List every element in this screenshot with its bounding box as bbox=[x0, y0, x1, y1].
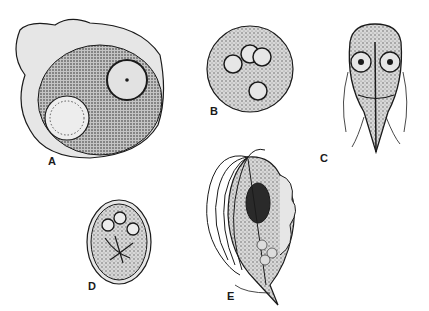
figure-c-label: C bbox=[320, 152, 328, 164]
figure-a-label: A bbox=[48, 155, 56, 167]
figure-c bbox=[338, 22, 413, 162]
illustration-plate: A B C bbox=[0, 0, 429, 311]
figure-d bbox=[85, 198, 153, 286]
cyst-b-drawing bbox=[205, 24, 295, 114]
figure-b bbox=[205, 24, 295, 114]
cyst-a-drawing bbox=[10, 15, 170, 160]
figure-e bbox=[200, 145, 310, 310]
figure-a bbox=[10, 15, 170, 160]
cyst-d-drawing bbox=[85, 198, 153, 286]
figure-e-label: E bbox=[227, 290, 234, 302]
figure-d-label: D bbox=[88, 280, 96, 292]
trophozoite-c-drawing bbox=[338, 22, 413, 162]
trophozoite-e-drawing bbox=[200, 145, 310, 310]
figure-b-label: B bbox=[210, 105, 218, 117]
